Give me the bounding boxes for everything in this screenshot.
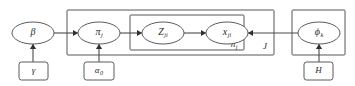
alpha-zero-parameter-box: α0 [84, 62, 114, 80]
edge-pi-to-z [120, 30, 142, 36]
gamma-parameter-box-label: γ [32, 65, 36, 75]
phi-k-node: ϕk [298, 22, 340, 44]
pi-j-node: πj [78, 22, 120, 44]
arrowhead [137, 30, 142, 36]
beta-node-label: β [30, 26, 36, 37]
edge-beta-to-pi [54, 30, 78, 36]
edge-h-to-phi [316, 44, 322, 62]
diagram-canvas: Jnjγα0HβπjZjixjiϕk [0, 0, 355, 86]
outer-plate-j-label: J [263, 41, 268, 51]
edge-z-to-x [184, 30, 206, 36]
edge-alpha-to-pi [96, 44, 102, 62]
arrowhead [30, 44, 36, 49]
arrowhead [316, 44, 322, 49]
gamma-parameter-box: γ [19, 62, 48, 80]
x-ji-node: xji [206, 22, 248, 44]
edge-phi-to-x [248, 30, 298, 36]
arrowhead [73, 30, 78, 36]
plate-diagram: Jnjγα0HβπjZjixjiϕk [0, 0, 355, 86]
arrowhead [248, 30, 253, 36]
arrowhead [96, 44, 102, 49]
beta-node: β [12, 22, 54, 44]
h-parameter-box: H [304, 62, 333, 80]
z-ji-node: Zji [142, 22, 184, 44]
edge-gamma-to-beta [30, 44, 36, 62]
arrowhead [201, 30, 206, 36]
h-parameter-box-label: H [314, 65, 322, 75]
